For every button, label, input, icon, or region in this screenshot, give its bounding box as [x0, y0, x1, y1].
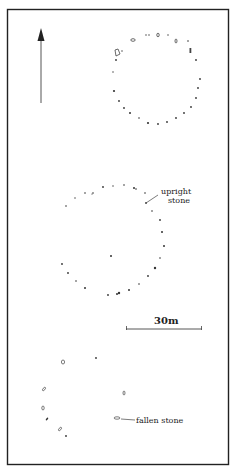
- north-stone-circle: [112, 33, 201, 125]
- fallen-stone-label: fallen stone: [136, 416, 184, 425]
- fallen-stone: [114, 417, 120, 419]
- south-stone-circle: [42, 357, 125, 437]
- upright-stone-label-1: upright: [161, 187, 192, 196]
- centre-stone: [110, 255, 112, 257]
- scale-bar: 30m: [126, 315, 202, 330]
- north-arrow-icon: [38, 28, 45, 103]
- scale-label: 30m: [154, 315, 179, 326]
- upright-stone-label-2: stone: [168, 196, 190, 205]
- site-plan: upright stone 30m fallen stone: [0, 0, 235, 471]
